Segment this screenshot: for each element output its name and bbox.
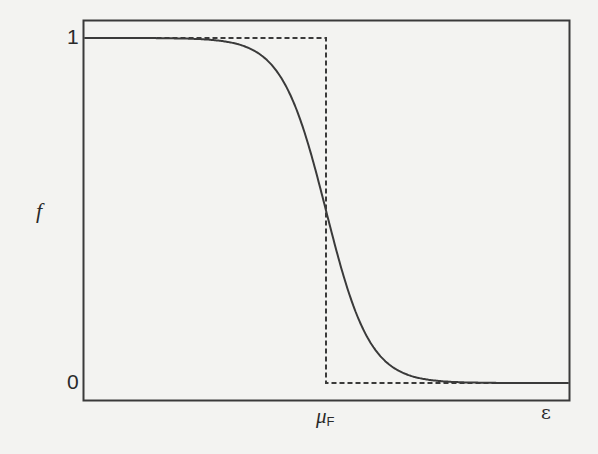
series-layer bbox=[85, 38, 569, 383]
x-tick-fermi-level: μF bbox=[316, 404, 335, 429]
plot-area bbox=[0, 0, 598, 454]
x-axis-label: ε bbox=[541, 401, 551, 423]
y-tick-1: 1 bbox=[67, 25, 79, 49]
mu-subscript: F bbox=[327, 414, 335, 429]
mu-symbol: μ bbox=[316, 404, 327, 428]
y-axis-label: f bbox=[36, 198, 42, 224]
y-tick-0: 0 bbox=[67, 370, 79, 394]
fermi-dirac-curve bbox=[85, 38, 569, 383]
